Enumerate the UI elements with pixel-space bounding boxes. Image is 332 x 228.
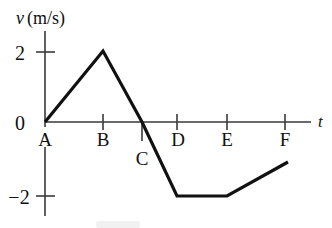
point-label-a: A <box>38 129 52 150</box>
graph-canvas: v (m/s) t 2 0 −2 A B C D E F <box>0 0 332 228</box>
point-label-d: D <box>171 129 185 150</box>
y-axis-label-2: 2 <box>15 42 25 64</box>
x-axis-title: t <box>318 112 324 131</box>
x-tick-marks <box>103 114 285 141</box>
y-axis-label-0: 0 <box>15 112 25 134</box>
velocity-time-figure: v (m/s) t 2 0 −2 A B C D E F <box>0 0 332 228</box>
point-label-c: C <box>136 148 149 169</box>
point-label-f: F <box>280 129 291 150</box>
y-axis-label-minus-2: −2 <box>8 186 29 208</box>
point-label-e: E <box>221 129 233 150</box>
y-axis-title-units: (m/s) <box>27 8 65 29</box>
y-axis-title-symbol: v <box>16 8 24 28</box>
velocity-curve <box>45 51 288 196</box>
page-edge-artifact <box>96 221 140 228</box>
point-label-b: B <box>97 129 110 150</box>
axes-group <box>45 31 311 216</box>
